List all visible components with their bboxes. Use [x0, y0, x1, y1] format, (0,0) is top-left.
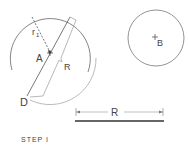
label-point-a: A — [36, 53, 43, 64]
dim-arrow-right — [159, 111, 163, 114]
label-r1: r — [32, 27, 35, 37]
arc-r-offset — [30, 58, 96, 105]
construction-diagram: r 1 A R D B R STEP I — [0, 0, 188, 151]
label-point-b: B — [157, 38, 163, 48]
label-dimension-r: R — [111, 107, 118, 118]
circle-b — [128, 10, 184, 66]
dim-arrow-left — [76, 111, 80, 114]
arc-around-a — [10, 19, 90, 72]
label-point-d: D — [20, 96, 28, 108]
label-r1-sub: 1 — [36, 32, 40, 38]
step-label: STEP I — [21, 136, 49, 143]
label-bracket-r: R — [64, 62, 71, 72]
